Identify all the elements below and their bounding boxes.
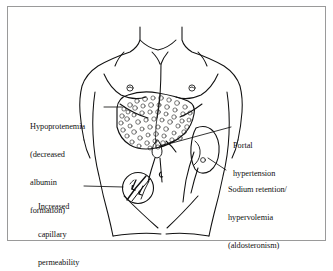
kidney bbox=[183, 127, 219, 202]
nipple-left bbox=[127, 85, 133, 91]
capillary-inset bbox=[123, 173, 154, 204]
label-capillary-permeability: Increased capillary permeability bbox=[38, 183, 79, 271]
label-line: permeability bbox=[38, 258, 79, 267]
label-sodium-retention: Sodium retention/ hypervolemia (aldoster… bbox=[228, 166, 287, 260]
label-line: Increased bbox=[38, 202, 79, 211]
label-line: (aldosteronism) bbox=[228, 241, 287, 250]
label-line: (decreased bbox=[30, 150, 85, 159]
torso-outline bbox=[80, 27, 243, 236]
label-line: Hypoprotenemia bbox=[30, 122, 85, 131]
label-line: capillary bbox=[38, 230, 79, 239]
label-line: Portal bbox=[233, 141, 275, 150]
label-line: hypervolemia bbox=[228, 213, 287, 222]
leader-lines bbox=[84, 107, 231, 187]
label-line: Sodium retention/ bbox=[228, 185, 287, 194]
nipple-right bbox=[189, 85, 195, 91]
